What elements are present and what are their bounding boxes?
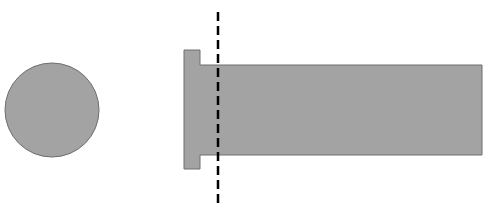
flanged-shaft: [184, 50, 482, 169]
cross-section-circle: [5, 63, 99, 157]
diagram-canvas: [0, 0, 485, 219]
